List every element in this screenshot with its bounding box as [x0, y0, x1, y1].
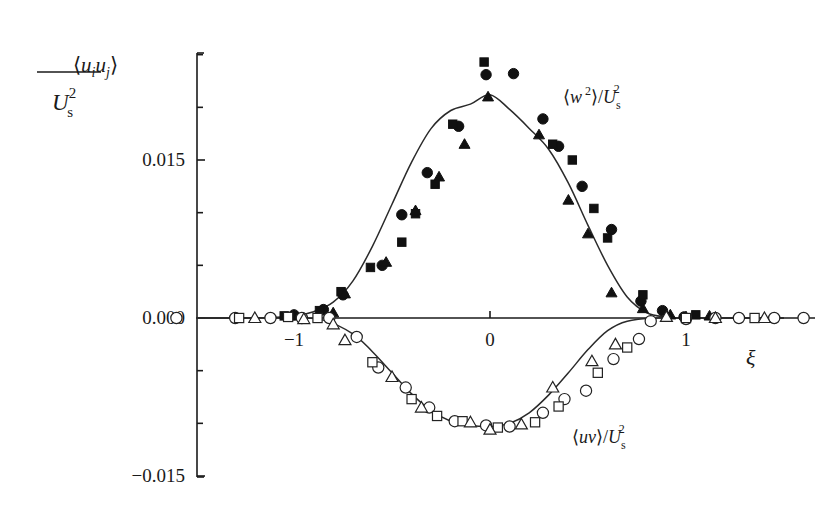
filled-square-marker	[549, 140, 557, 148]
open-circle-marker	[798, 312, 809, 323]
filled-circle-marker	[538, 114, 548, 124]
open-circle-marker	[400, 382, 411, 393]
filled-triangle-marker	[434, 171, 445, 181]
filled-circle-marker	[508, 68, 518, 78]
y-tick-label: 0.015	[142, 149, 185, 170]
open-circle-marker	[580, 385, 591, 396]
open-square-marker	[407, 395, 416, 404]
model-curve	[196, 95, 784, 319]
filled-circle-marker	[481, 69, 491, 79]
filled-square-marker	[692, 311, 700, 319]
open-square-marker	[432, 411, 441, 420]
open-triangle-marker	[586, 355, 598, 366]
filled-square-marker	[568, 156, 576, 164]
open-square-marker	[368, 358, 377, 367]
model-curves	[196, 95, 784, 427]
filled-square-marker	[590, 204, 598, 212]
open-circle-marker	[351, 331, 362, 342]
filled-square-marker	[603, 234, 611, 242]
annotations: ⟨w 2⟩/Us2 ⟨uv⟩/Us2	[563, 82, 626, 452]
filled-circle-marker	[422, 167, 432, 177]
open-circle-marker	[733, 312, 744, 323]
data-markers	[171, 58, 809, 434]
x-tick-label: 1	[681, 329, 691, 350]
y-axis-label: ⟨uiuj⟩ U2s	[37, 53, 118, 120]
open-square-marker	[681, 313, 690, 322]
filled-triangle-marker	[606, 287, 617, 297]
open-circle-marker	[537, 407, 548, 418]
filled-circle-marker	[577, 181, 587, 191]
filled-square-marker	[449, 120, 457, 128]
y-label-numerator: ⟨uiuj⟩	[73, 53, 118, 80]
y-ticks: 0.0150.000−0.015	[132, 55, 205, 486]
x-tick-label: −1	[284, 329, 304, 350]
open-circle-marker	[171, 312, 182, 323]
open-triangle-marker	[339, 334, 351, 345]
x-axis-label: ξ	[746, 345, 756, 370]
open-square-marker	[593, 368, 602, 377]
open-square-marker	[235, 313, 244, 322]
uv-curve-label: ⟨uv⟩/Us2	[572, 422, 626, 452]
open-circle-marker	[645, 316, 656, 327]
filled-square-marker	[398, 238, 406, 246]
open-square-marker	[623, 343, 632, 352]
stress-profile-chart: 0.0150.000−0.015 −101 ⟨uiuj⟩ U2s ξ ⟨w 2⟩…	[0, 0, 819, 512]
open-square-marker	[554, 402, 563, 411]
open-circle-marker	[608, 353, 619, 364]
x-tick-label: 0	[485, 329, 495, 350]
filled-square-marker	[366, 263, 374, 271]
open-circle-marker	[504, 421, 515, 432]
open-square-marker	[530, 418, 539, 427]
y-tick-label: −0.015	[132, 465, 185, 486]
open-square-marker	[284, 312, 293, 321]
filled-circle-marker	[397, 210, 407, 220]
open-circle-marker	[633, 333, 644, 344]
filled-triangle-marker	[459, 139, 470, 149]
filled-square-marker	[639, 291, 647, 299]
open-triangle-marker	[609, 338, 621, 349]
y-label-denominator: U2s	[52, 85, 76, 120]
open-square-marker	[313, 313, 322, 322]
filled-circle-marker	[606, 224, 616, 234]
open-triangle-marker	[386, 371, 398, 382]
filled-triangle-marker	[563, 195, 574, 205]
open-circle-marker	[265, 312, 276, 323]
w2-curve-label: ⟨w 2⟩/Us2	[563, 82, 621, 112]
open-square-marker	[750, 313, 759, 322]
filled-square-marker	[480, 58, 488, 66]
